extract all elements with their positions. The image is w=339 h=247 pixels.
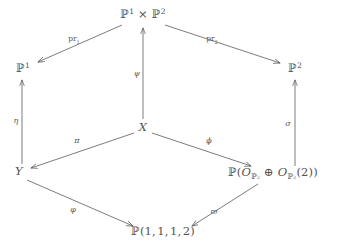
node-x: X [139,122,147,134]
arrow-p1xp2-to-p2 [165,25,280,63]
node-y-text: Y [15,164,23,178]
node-x-text: X [139,120,147,134]
arrow-pbundle-to-weighted [192,184,258,226]
node-p1-times-p2-text: ℙ1 × ℙ2 [120,7,165,21]
node-y: Y [15,166,23,178]
arrow-label-pr2-subscript: 2 [215,39,218,45]
node-weighted-projective-space: ℙ(1, 1, 1, 2) [131,226,195,238]
node-p1-text: ℙ1 [16,61,30,75]
arrow-label-eta: η [14,117,19,125]
arrow-x-to-pbundle [152,133,251,166]
arrow-x-to-y [31,133,134,168]
arrow-label-pr1: pr1 [68,35,80,44]
arrow-label-phi: ϕ [206,137,211,145]
node-p2: ℙ2 [288,61,302,74]
arrow-label-varpi: ϖ [211,208,218,216]
arrow-label-pr2: pr2 [206,35,218,44]
node-p1-times-p2: ℙ1 × ℙ2 [120,7,165,20]
arrow-label-psi: ψ [134,70,140,78]
node-projective-bundle: ℙ(Oℙ2 ⊕ Oℙ2(2)) [228,167,318,181]
arrow-label-pi: π [74,137,79,145]
arrow-y-to-weighted [27,180,133,226]
arrow-label-pr1-subscript: 1 [77,39,80,45]
node-weighted-projective-space-text: ℙ(1, 1, 1, 2) [131,224,195,238]
arrow-label-sigma: σ [285,120,290,128]
arrow-p1xp2-to-p1 [38,25,122,62]
node-p2-text: ℙ2 [288,61,302,75]
node-projective-bundle-text: ℙ(Oℙ2 ⊕ Oℙ2(2)) [228,165,318,179]
commutative-diagram: ℙ1 × ℙ2 ℙ1 ℙ2 X Y ℙ(Oℙ2 ⊕ Oℙ2(2)) ℙ(1, 1… [0,0,339,247]
arrow-label-varphi: φ [70,206,76,214]
node-p1: ℙ1 [16,61,30,74]
